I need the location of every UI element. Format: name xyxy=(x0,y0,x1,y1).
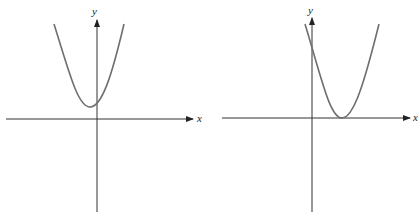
left-graph: x y xyxy=(6,5,202,212)
left-parabola xyxy=(54,24,124,107)
graphs-canvas: x y x y xyxy=(0,0,418,221)
right-y-label: y xyxy=(307,4,313,16)
right-x-label: x xyxy=(412,111,418,123)
right-parabola xyxy=(305,24,379,118)
left-y-label: y xyxy=(91,5,97,17)
right-graph: x y xyxy=(222,4,418,212)
left-x-label: x xyxy=(196,112,202,124)
